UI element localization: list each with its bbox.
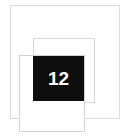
graphic-canvas: 12	[0, 0, 128, 139]
number-badge: 12	[33, 56, 84, 101]
badge-number-label: 12	[48, 69, 69, 88]
